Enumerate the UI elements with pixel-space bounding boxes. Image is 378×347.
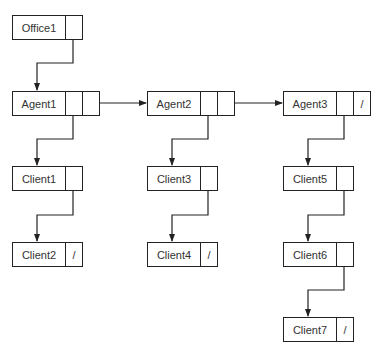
node-label: Client1 [13,167,65,190]
node-client4: Client4 / [147,242,218,267]
null-pointer-cell: / [353,92,370,115]
node-label: Office1 [13,16,65,39]
node-office1: Office1 [12,15,83,40]
node-client7: Client7 / [283,317,354,342]
pointer-cell [336,92,353,115]
node-label: Agent3 [284,92,336,115]
pointer-cell [200,92,217,115]
node-label: Client4 [148,243,200,266]
node-label: Client6 [284,243,336,266]
node-agent3: Agent3 / [283,91,371,116]
node-label: Client5 [284,167,336,190]
node-label: Client7 [284,318,336,341]
node-client1: Client1 [12,166,83,191]
node-label: Agent1 [13,92,65,115]
node-agent1: Agent1 [12,91,100,116]
pointer-cell [65,167,82,190]
node-client6: Client6 [283,242,354,267]
pointer-cell [336,243,353,266]
pointer-cell [200,167,217,190]
pointer-cell [217,92,234,115]
null-pointer-cell: / [336,318,353,341]
pointer-cell [336,167,353,190]
pointer-cell [82,92,99,115]
null-pointer-cell: / [65,243,82,266]
pointer-cell [65,92,82,115]
node-agent2: Agent2 [147,91,235,116]
pointer-cell [65,16,82,39]
node-label: Client3 [148,167,200,190]
diagram-canvas: Office1 Agent1 Agent2 Agent3 / Client1 C… [0,0,378,347]
node-label: Client2 [13,243,65,266]
node-label: Agent2 [148,92,200,115]
node-client2: Client2 / [12,242,83,267]
node-client5: Client5 [283,166,354,191]
null-pointer-cell: / [200,243,217,266]
node-client3: Client3 [147,166,218,191]
